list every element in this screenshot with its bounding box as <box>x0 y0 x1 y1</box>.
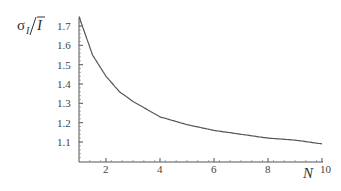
svg-text:I: I <box>36 17 43 33</box>
x-tick-label: 6 <box>211 163 217 175</box>
svg-text:σ: σ <box>17 17 25 33</box>
x-tick-label: 2 <box>103 163 109 175</box>
y-tick-label: 1.7 <box>57 20 71 32</box>
chart: 1.11.21.31.41.51.61.7 246810 σ I I N <box>0 0 341 191</box>
x-axis-title: N <box>302 165 314 181</box>
y-axis-title: σ I I <box>17 17 45 36</box>
y-tick-label: 1.1 <box>57 136 71 148</box>
x-tick-label: 10 <box>320 163 332 175</box>
data-curve <box>79 16 322 143</box>
x-tick-label: 8 <box>265 163 271 175</box>
x-tick-label: 4 <box>157 163 163 175</box>
y-tick-label: 1.2 <box>57 117 71 129</box>
y-tick-label: 1.4 <box>57 78 71 90</box>
y-tick-label: 1.3 <box>57 97 71 109</box>
x-ticks: 246810 <box>90 158 332 175</box>
svg-text:I: I <box>25 25 30 36</box>
y-tick-label: 1.6 <box>57 39 71 51</box>
y-tick-label: 1.5 <box>57 59 71 71</box>
